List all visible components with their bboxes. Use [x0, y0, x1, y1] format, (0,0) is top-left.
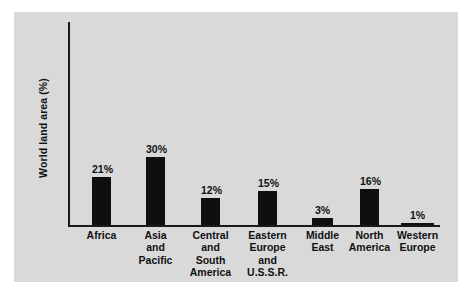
category-label-line: Africa	[71, 229, 133, 241]
bar-group: 15%	[258, 22, 277, 225]
bar-value-label: 15%	[258, 177, 277, 189]
category-label-line: and	[180, 241, 242, 253]
category-label: Africa	[71, 229, 133, 241]
bar-rect	[258, 191, 277, 225]
bar-group: 12%	[201, 22, 220, 225]
bar-rect	[92, 177, 111, 225]
bar-group: 30%	[146, 22, 165, 225]
category-label-line: Central	[180, 229, 242, 241]
bar-value-label: 30%	[146, 143, 165, 155]
y-axis-title: World land area (%)	[37, 48, 49, 208]
plot-area: 21%30%12%15%3%16%1%	[70, 22, 440, 225]
category-label-line: and	[125, 241, 187, 253]
category-label-line: America	[180, 266, 242, 278]
bar-group: 3%	[312, 22, 333, 225]
category-label-line: and	[237, 254, 299, 266]
category-label-line: Asia	[125, 229, 187, 241]
bar-group: 1%	[401, 22, 434, 225]
category-label-line: South	[180, 254, 242, 266]
bar-rect	[360, 189, 379, 225]
bar-value-label: 1%	[401, 209, 434, 221]
bar-chart-figure: World land area (%) 21%30%12%15%3%16%1% …	[0, 0, 471, 296]
bar-rect	[312, 218, 333, 225]
bar-value-label: 3%	[312, 204, 333, 216]
x-axis-line	[68, 225, 440, 227]
bar-rect	[401, 223, 434, 225]
category-label-line: Eastern	[237, 229, 299, 241]
bar-value-label: 12%	[201, 184, 220, 196]
bar-group: 21%	[92, 22, 111, 225]
category-label-line: Pacific	[125, 254, 187, 266]
category-label: WesternEurope	[387, 229, 449, 254]
category-label-line: Europe	[387, 241, 449, 253]
bar-rect	[146, 157, 165, 225]
category-label-line: Western	[387, 229, 449, 241]
category-label-line: U.S.S.R.	[237, 266, 299, 278]
category-label: EasternEuropeandU.S.S.R.	[237, 229, 299, 279]
bar-rect	[201, 198, 220, 225]
category-label: CentralandSouthAmerica	[180, 229, 242, 279]
category-label: AsiaandPacific	[125, 229, 187, 266]
bar-value-label: 21%	[92, 163, 111, 175]
category-label-line: Europe	[237, 241, 299, 253]
bar-value-label: 16%	[360, 175, 379, 187]
bar-group: 16%	[360, 22, 379, 225]
category-axis: AfricaAsiaandPacificCentralandSouthAmeri…	[70, 229, 442, 285]
